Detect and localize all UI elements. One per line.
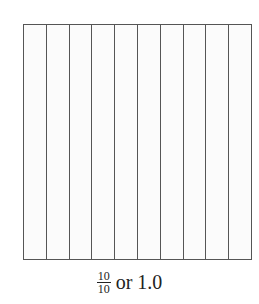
tenths-square bbox=[23, 24, 252, 260]
strip bbox=[229, 25, 251, 259]
caption: 10 10 or 1.0 bbox=[0, 270, 259, 295]
fraction-denominator: 10 bbox=[98, 283, 110, 295]
strip bbox=[24, 25, 47, 259]
strip bbox=[161, 25, 184, 259]
strip bbox=[184, 25, 207, 259]
strip bbox=[115, 25, 138, 259]
strip bbox=[70, 25, 93, 259]
decimal-equivalent: or 1.0 bbox=[116, 271, 163, 294]
strip bbox=[47, 25, 70, 259]
fraction: 10 10 bbox=[97, 270, 111, 295]
strip bbox=[138, 25, 161, 259]
strip bbox=[206, 25, 229, 259]
strip bbox=[92, 25, 115, 259]
